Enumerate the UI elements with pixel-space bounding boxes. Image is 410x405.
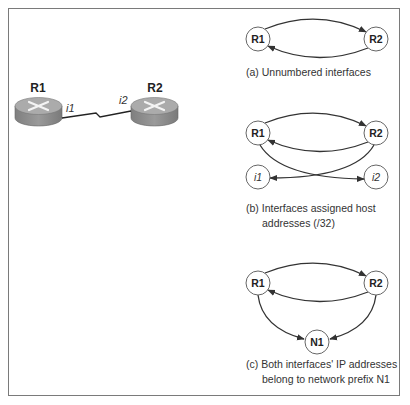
router-r1-label: R1: [30, 81, 46, 95]
router-r1: R1: [15, 81, 62, 126]
interface-i2-label: i2: [119, 94, 128, 106]
node-r1-label: R1: [251, 127, 265, 139]
interface-i1-label: i1: [66, 102, 75, 114]
edge-r2-r1: [268, 140, 368, 152]
caption-c-line1: (c) Both interfaces' IP addresses: [246, 358, 397, 370]
diagram-a: R1 R2 (a) Unnumbered interfaces: [246, 19, 388, 78]
diagram-canvas: R1 R2 i1 i2 R1 R2 (a) Unnumbered interfa…: [0, 0, 410, 405]
node-r1-label: R1: [251, 33, 265, 45]
router-r2-label: R2: [147, 81, 163, 95]
edge-r1-r2: [265, 19, 366, 32]
router-r2: R2: [131, 81, 178, 126]
edge-r1-i2: [260, 145, 364, 179]
edge-r2-r1: [268, 290, 368, 302]
edge-r1-r2: [265, 263, 366, 276]
node-r2-label: R2: [369, 127, 383, 139]
caption-b-line1: (b) Interfaces assigned host: [246, 202, 376, 214]
caption-a: (a) Unnumbered interfaces: [246, 66, 371, 78]
node-i2-label: i2: [372, 171, 380, 183]
edge-r1-n1: [258, 295, 304, 339]
node-n1-label: N1: [310, 336, 324, 348]
caption-c-line2: belong to network prefix N1: [262, 373, 390, 385]
edge-r2-r1: [268, 46, 368, 58]
edge-r1-r2: [265, 113, 366, 126]
edge-r2-n1: [330, 295, 376, 339]
diagram-b: R1 R2 i1 i2 (b) Interfaces assigned host…: [246, 113, 388, 229]
node-r1-label: R1: [251, 277, 265, 289]
diagram-c: R1 R2 N1 (c) Both interfaces' IP address…: [246, 263, 397, 385]
node-r2-label: R2: [369, 277, 383, 289]
node-i1-label: i1: [254, 171, 262, 183]
node-r2-label: R2: [369, 33, 383, 45]
edge-r2-i1: [270, 145, 374, 178]
caption-b-line2: addresses (/32): [262, 217, 335, 229]
